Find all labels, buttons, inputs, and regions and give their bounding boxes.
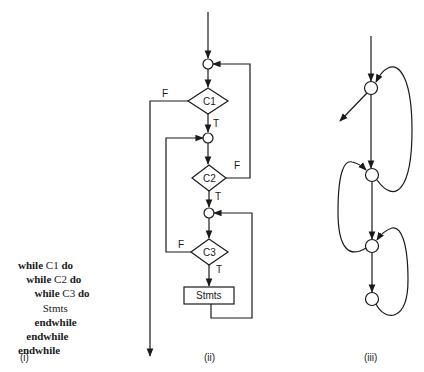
- c3-label: C3: [203, 247, 216, 258]
- panel-ii-label: (ii): [204, 352, 215, 363]
- panel-iii-label: (iii): [364, 352, 377, 363]
- back-edge-2-1: [376, 67, 412, 192]
- graph-node-2: [366, 169, 379, 182]
- junction-node-3: [204, 208, 214, 218]
- back-edge-4-3: [376, 228, 408, 316]
- flowchart-ii: [150, 12, 252, 356]
- back-edge-3-2: [338, 162, 366, 252]
- graph-iii: [338, 36, 412, 315]
- c3-false-loop-arrow: [166, 138, 203, 252]
- graph-node-4: [366, 293, 379, 306]
- diagram-canvas: C1 C2 C3 F T F T F T Stmts (ii) (iii): [0, 0, 424, 372]
- c1-label: C1: [203, 96, 216, 107]
- stmts-label: Stmts: [196, 290, 222, 301]
- graph-node-3: [366, 240, 379, 253]
- junction-node-1: [203, 59, 213, 69]
- c1-false-label: F: [162, 88, 168, 99]
- junction-node-2: [203, 133, 213, 143]
- graph-exit-arrow: [340, 93, 367, 121]
- c3-true-label: T: [216, 264, 222, 275]
- c1-false-exit-arrow: [150, 101, 188, 356]
- c1-true-label: T: [213, 118, 219, 129]
- graph-node-1: [365, 82, 378, 95]
- c2-label: C2: [203, 173, 216, 184]
- c3-false-label: F: [178, 239, 184, 250]
- c2-true-label: T: [215, 191, 221, 202]
- c2-false-label: F: [234, 160, 240, 171]
